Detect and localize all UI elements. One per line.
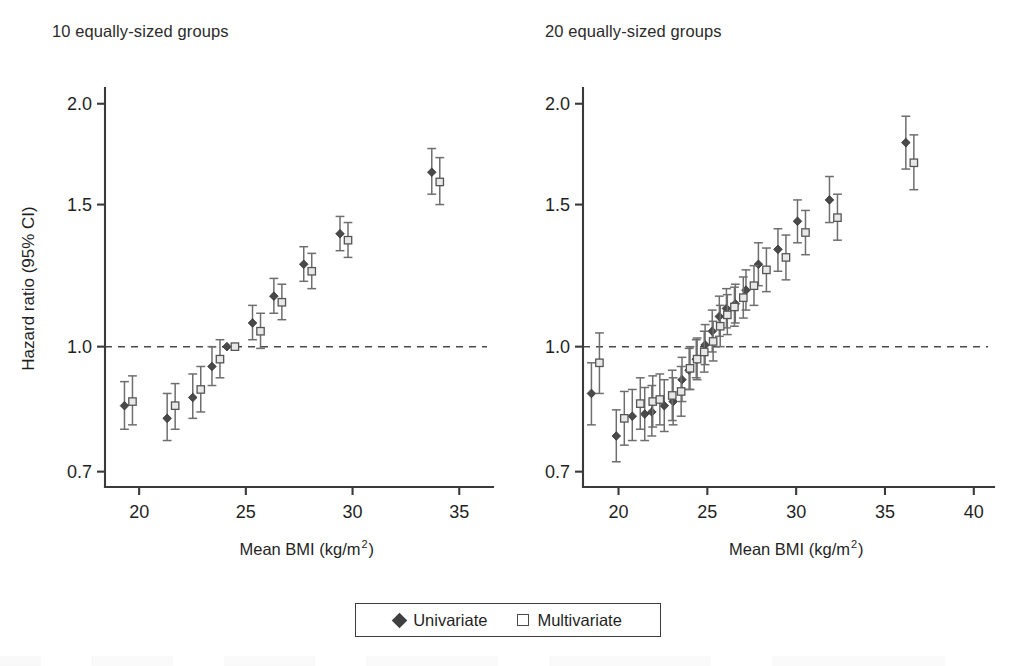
data-point (216, 340, 225, 378)
univariate-marker (223, 342, 232, 351)
data-point (307, 253, 316, 288)
univariate-marker (248, 319, 257, 328)
open-square-icon (517, 614, 529, 626)
x-tick-label: 20 (609, 502, 629, 522)
data-point (595, 333, 604, 394)
data-point (248, 305, 257, 339)
x-axis-title-tail: ) (369, 540, 375, 558)
univariate-marker (120, 401, 129, 410)
data-point (188, 374, 197, 418)
figure-root: 10 equally-sized groups 20 equally-sized… (0, 0, 1016, 666)
multivariate-marker (656, 396, 663, 403)
multivariate-marker (802, 229, 809, 236)
univariate-marker (336, 229, 345, 238)
data-point (256, 313, 265, 348)
data-point (344, 223, 353, 258)
y-tick-label: 0.7 (545, 462, 570, 482)
data-point (754, 243, 763, 286)
univariate-marker (628, 412, 637, 421)
data-point (269, 278, 278, 313)
data-point (833, 194, 842, 240)
data-point (208, 347, 217, 386)
univariate-marker (902, 138, 911, 147)
data-point (655, 374, 664, 425)
multivariate-marker (709, 338, 716, 345)
univariate-marker (715, 312, 724, 321)
multivariate-marker (834, 214, 841, 221)
data-point (801, 210, 810, 254)
univariate-marker (640, 410, 649, 419)
x-tick-label: 35 (449, 502, 469, 522)
y-tick-label: 2.0 (67, 94, 92, 114)
series-multivariate (595, 135, 918, 445)
multivariate-marker (701, 348, 708, 355)
y-tick-label: 1.0 (67, 337, 92, 357)
univariate-marker (163, 414, 172, 423)
x-tick-label: 25 (697, 502, 717, 522)
multivariate-marker (257, 328, 264, 335)
series-univariate (587, 116, 910, 462)
panel-right: 0.71.01.52.02025303540Mean BMI (kg/m2) (545, 88, 994, 558)
data-point (762, 248, 771, 292)
x-axis-title: Mean BMI (kg/m (729, 540, 850, 558)
univariate-marker (754, 260, 763, 269)
data-point (277, 284, 286, 319)
x-tick-label: 20 (129, 502, 149, 522)
x-axis-title-superscript: 2 (362, 538, 368, 550)
univariate-marker (427, 168, 436, 177)
multivariate-marker (693, 355, 700, 362)
multivariate-marker (596, 359, 603, 366)
legend-label-multivariate: Multivariate (537, 611, 621, 630)
x-tick-label: 30 (343, 502, 363, 522)
page-edge-artifact (0, 656, 1016, 666)
data-point (901, 116, 910, 169)
data-point (750, 266, 759, 306)
data-point (660, 380, 669, 432)
x-axis-title-superscript: 2 (851, 538, 857, 550)
multivariate-marker (637, 400, 644, 407)
data-point (909, 135, 918, 190)
multivariate-marker (750, 282, 757, 289)
data-point (196, 366, 205, 411)
multivariate-marker (724, 311, 731, 318)
univariate-marker (793, 217, 802, 226)
multivariate-marker (436, 178, 443, 185)
data-point (120, 382, 129, 430)
univariate-marker (678, 375, 687, 384)
data-point (620, 391, 629, 445)
data-point (427, 149, 436, 195)
y-tick-label: 1.5 (545, 195, 570, 215)
data-point (793, 200, 802, 243)
data-point (299, 247, 308, 282)
y-tick-label: 1.5 (67, 195, 92, 215)
multivariate-marker (677, 388, 684, 395)
series-univariate (120, 149, 436, 441)
univariate-marker (188, 393, 197, 402)
multivariate-marker (197, 386, 204, 393)
y-axis-title: Hazard ratio (95% CI) (19, 206, 38, 370)
x-tick-label: 35 (875, 502, 895, 522)
data-point (628, 389, 637, 440)
legend: Univariate Multivariate (355, 603, 661, 637)
data-point (774, 229, 783, 272)
x-tick-label: 40 (964, 502, 984, 522)
multivariate-marker (782, 254, 789, 261)
multivariate-marker (231, 343, 238, 350)
univariate-marker (648, 408, 657, 417)
univariate-marker (208, 362, 217, 371)
data-point (336, 216, 345, 250)
data-point (612, 410, 621, 462)
multivariate-marker (278, 299, 285, 306)
data-point (782, 235, 791, 280)
filled-diamond-icon (392, 612, 408, 628)
data-point (435, 158, 444, 205)
multivariate-marker (621, 415, 628, 422)
x-axis-title-tail: ) (858, 540, 864, 558)
data-point (640, 387, 649, 440)
y-tick-label: 0.7 (67, 462, 92, 482)
data-point (231, 343, 238, 350)
multivariate-marker (649, 398, 656, 405)
data-point (825, 177, 834, 223)
y-tick-label: 1.0 (545, 337, 570, 357)
multivariate-marker (129, 398, 136, 405)
